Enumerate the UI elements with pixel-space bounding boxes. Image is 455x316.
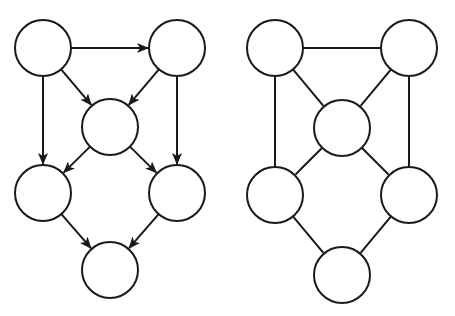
edge-B-C [361, 69, 391, 105]
arrow-edge-A-C [61, 69, 91, 105]
node-E [381, 167, 437, 223]
node-A [247, 20, 303, 76]
node-A [15, 20, 71, 76]
edge-C-E [362, 148, 389, 175]
arrow-edge-D-F [61, 214, 91, 248]
arrow-edge-E-F [129, 214, 159, 248]
arrow-edge-C-D [64, 147, 90, 173]
directed-graph [15, 20, 205, 298]
node-D [15, 165, 71, 221]
arrow-edge-B-C [129, 69, 159, 105]
graph-diagram [0, 0, 455, 316]
node-C [82, 99, 138, 155]
edge-D-F [293, 216, 323, 252]
node-E [149, 165, 205, 221]
edge-C-D [296, 148, 323, 175]
node-F [82, 242, 138, 298]
edge-A-C [293, 69, 323, 105]
node-F [314, 247, 370, 303]
node-B [149, 20, 205, 76]
node-D [247, 167, 303, 223]
node-C [314, 100, 370, 156]
arrow-edge-C-E [130, 147, 156, 173]
undirected-graph [247, 20, 437, 303]
edge-E-F [361, 216, 391, 252]
node-B [381, 20, 437, 76]
